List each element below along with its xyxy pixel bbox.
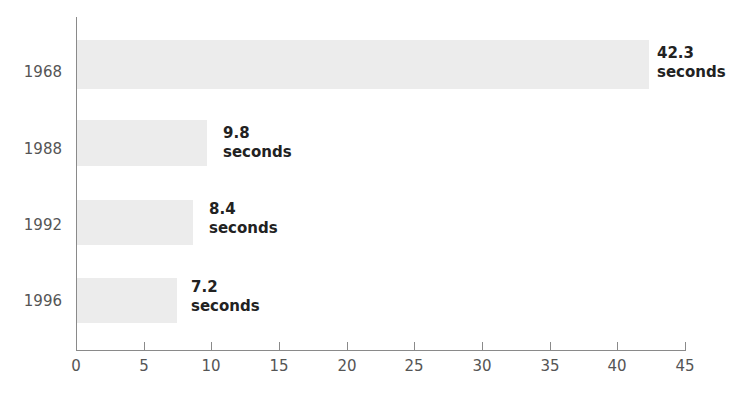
category-label: 1992 [0,216,62,234]
value-number: 9.8 [223,124,292,143]
x-axis-line [76,350,686,351]
x-tick-label: 30 [462,357,502,375]
x-tick-label: 20 [327,357,367,375]
x-tick [617,342,618,350]
value-unit: seconds [223,143,292,162]
x-tick-label: 40 [597,357,637,375]
x-tick-label: 10 [191,357,231,375]
bar-1988 [77,120,207,166]
value-number: 7.2 [191,278,260,297]
category-label: 1988 [0,140,62,158]
x-tick [76,342,77,350]
value-unit: seconds [209,219,278,238]
value-label-1992: 8.4 seconds [209,200,278,238]
value-number: 8.4 [209,200,278,219]
x-tick-label: 5 [124,357,164,375]
value-unit: seconds [191,297,260,316]
x-tick [279,342,280,350]
x-tick [414,342,415,350]
bar-1968 [77,40,649,89]
x-tick [482,342,483,350]
x-tick-label: 45 [665,357,705,375]
bar-1996 [77,278,177,323]
value-unit: seconds [657,63,726,82]
x-tick [144,342,145,350]
x-tick [211,342,212,350]
x-tick-label: 25 [394,357,434,375]
category-label: 1996 [0,292,62,310]
x-tick [550,342,551,350]
x-tick-label: 35 [530,357,570,375]
value-label-1968: 42.3 seconds [657,44,726,82]
value-label-1996: 7.2 seconds [191,278,260,316]
x-tick-label: 15 [259,357,299,375]
category-label: 1968 [0,63,62,81]
value-number: 42.3 [657,44,726,63]
x-tick-label: 0 [56,357,96,375]
value-label-1988: 9.8 seconds [223,124,292,162]
x-tick [347,342,348,350]
x-tick [685,342,686,350]
bar-1992 [77,200,193,245]
